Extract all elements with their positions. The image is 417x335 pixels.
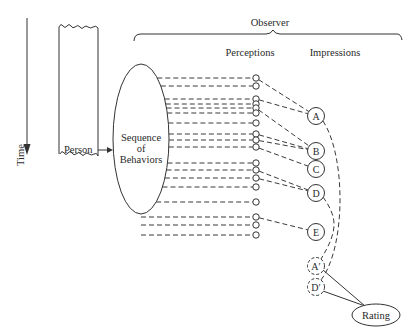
- perception-node: [253, 110, 259, 116]
- person-arrow: [98, 147, 113, 153]
- rating-input-lines: [323, 270, 365, 306]
- perception-nodes: [253, 75, 259, 238]
- sequence-label-line3: Behaviors: [120, 154, 163, 165]
- observer-label: Observer: [251, 17, 290, 28]
- impression-node-c: C: [308, 161, 325, 178]
- impression-label: A′: [311, 261, 320, 272]
- impression-label: E: [313, 227, 319, 238]
- perceptions-heading: Perceptions: [226, 47, 275, 58]
- person-label: Person: [64, 144, 93, 155]
- person-column: Person: [59, 25, 98, 157]
- observer-brace-path: [134, 30, 402, 41]
- impression-rating-link: [323, 291, 365, 306]
- impression-node-d: D: [308, 185, 325, 202]
- impression-node-d2: D′: [308, 279, 325, 296]
- perception-node: [253, 214, 259, 220]
- perception-node: [253, 232, 259, 238]
- impression-rating-link: [323, 270, 365, 306]
- impression-label: B: [313, 146, 320, 157]
- perception-node: [253, 137, 259, 143]
- perception-node: [253, 120, 259, 126]
- perception-impression-link: [259, 135, 308, 149]
- arrow-right-icon: [107, 147, 113, 153]
- impression-label: D′: [311, 282, 320, 293]
- observer-brace: Observer: [134, 17, 402, 41]
- rating-label: Rating: [362, 310, 391, 321]
- time-axis: Time: [15, 18, 31, 166]
- perception-node: [253, 167, 259, 173]
- person-wavy-top: [59, 25, 98, 29]
- perception-impression-link: [259, 218, 308, 230]
- rating-node: Rating: [352, 304, 400, 326]
- perception-node: [253, 144, 259, 150]
- perception-node: [253, 83, 259, 89]
- impression-node-e: E: [308, 224, 325, 241]
- time-label: Time: [15, 144, 26, 166]
- impression-label: C: [313, 164, 320, 175]
- perception-node: [253, 160, 259, 166]
- impression-label: A: [312, 111, 320, 122]
- sequence-label-line2: of: [137, 143, 146, 154]
- perception-impression-link: [259, 110, 310, 146]
- memory-recall-curves: [321, 121, 340, 280]
- impression-label: D: [312, 188, 319, 199]
- perception-to-impression-lines: [259, 80, 310, 230]
- sequence-label-line1: Sequence: [121, 132, 162, 143]
- memory-recall-curve: [321, 121, 340, 280]
- perception-impression-link: [259, 148, 308, 166]
- behaviors-ellipse-group: Sequence of Behaviors: [113, 64, 169, 214]
- perception-node: [253, 75, 259, 81]
- perception-node: [253, 222, 259, 228]
- perception-impression-link: [259, 171, 308, 190]
- perception-node: [253, 131, 259, 137]
- impressions-heading: Impressions: [310, 47, 361, 58]
- impression-node-a2: A′: [308, 258, 325, 275]
- perception-node: [253, 184, 259, 190]
- perception-node: [253, 199, 259, 205]
- impression-node-b: B: [308, 143, 325, 160]
- impression-node-a: A: [308, 108, 325, 125]
- impression-nodes: ABCDEA′D′: [308, 108, 325, 296]
- person-perception-diagram: Time Person Sequence of Behaviors Observ…: [0, 0, 417, 335]
- perception-node: [253, 175, 259, 181]
